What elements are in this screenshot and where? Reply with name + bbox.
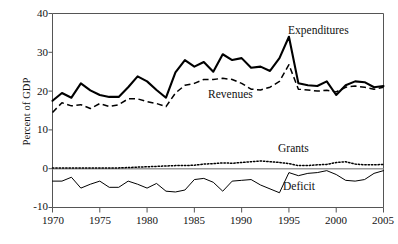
series-label-revenues: Revenues	[208, 88, 253, 100]
y-tick-marks	[49, 14, 53, 208]
series-line-grants	[53, 161, 384, 168]
x-tick-marks	[53, 208, 384, 213]
series-label-deficit: Deficit	[283, 180, 315, 192]
series-label-expenditures: Expenditures	[288, 24, 349, 36]
axes-frame	[53, 14, 384, 208]
plot-area	[0, 0, 398, 244]
series-line-deficit	[53, 171, 384, 193]
series-label-grants: Grants	[278, 142, 309, 154]
chart-figure: Percent of GDP 40 30 20 10 0 -10 1970 19…	[0, 0, 398, 244]
